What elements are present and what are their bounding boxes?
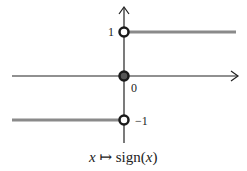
origin-label-0: 0 (131, 81, 137, 95)
sign-function-diagram: 1 0 −1 x ↦ sign(x) (0, 0, 247, 171)
y-tick-label-minus-1: −1 (135, 114, 148, 128)
open-circle-bottom (120, 116, 129, 125)
function-caption: x ↦ sign(x) (88, 149, 157, 166)
filled-point-origin (120, 72, 129, 81)
mapsto-symbol: ↦ (99, 149, 112, 165)
caption-var: x (88, 149, 96, 165)
open-circle-top (120, 28, 129, 37)
caption-close: ) (152, 149, 157, 166)
caption-func: sign( (116, 149, 146, 166)
y-tick-label-1: 1 (108, 25, 114, 39)
